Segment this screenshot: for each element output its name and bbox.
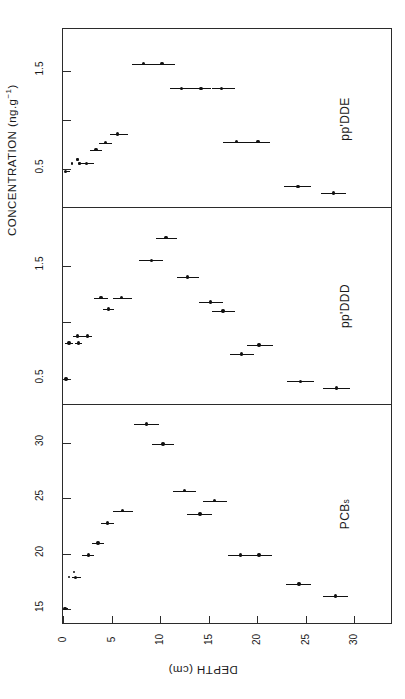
y-axis-tick-label: 15 <box>34 592 45 622</box>
x-axis-tick <box>63 616 64 623</box>
panel-caption: pp'DDE <box>338 74 352 164</box>
panel-caption: PCBs <box>338 469 352 559</box>
x-axis-tick-label: 25 <box>299 628 310 652</box>
y-axis-title-text: CONCENTRATION (ng.g <box>6 99 18 236</box>
data-point <box>240 352 243 355</box>
data-point <box>99 296 102 299</box>
panel-caption-text: PCB <box>338 503 352 529</box>
data-point <box>142 62 145 65</box>
data-point <box>78 162 80 164</box>
data-point <box>150 259 153 262</box>
data-point <box>116 132 119 135</box>
y-axis-title-paren: ) <box>6 84 18 88</box>
data-point <box>220 87 223 90</box>
data-point <box>221 309 224 312</box>
y-axis-tick <box>63 322 71 323</box>
data-point <box>74 576 77 579</box>
data-point <box>299 380 302 383</box>
y-axis-tick <box>63 498 71 499</box>
data-point <box>64 170 67 173</box>
y-axis-tick-label: 20 <box>34 536 45 566</box>
data-point <box>235 140 238 143</box>
data-point <box>335 386 338 389</box>
x-axis-tick <box>354 616 355 623</box>
y-axis-title-exponent: −1 <box>4 89 13 99</box>
error-bar <box>153 64 174 65</box>
data-point <box>297 582 300 585</box>
data-point <box>183 489 186 492</box>
data-point <box>121 509 124 512</box>
x-axis-tick-label: 15 <box>202 628 213 652</box>
data-point <box>209 300 212 303</box>
error-bar <box>212 88 235 89</box>
x-axis-tick <box>257 616 258 623</box>
data-point <box>164 236 167 239</box>
data-point <box>77 341 80 344</box>
panel-caption-subscript: s <box>341 499 351 504</box>
panel-divider <box>63 207 391 208</box>
data-point <box>257 553 260 556</box>
data-point <box>145 422 148 425</box>
data-point <box>256 140 259 143</box>
data-point <box>76 158 78 160</box>
data-point <box>85 162 88 165</box>
x-axis-tick <box>112 616 113 623</box>
y-axis-tick-label: 25 <box>34 481 45 511</box>
x-axis-title: DEPTH (cm) <box>118 664 288 676</box>
data-point <box>257 343 260 346</box>
data-point <box>107 307 110 310</box>
y-axis-tick-label: 1.5 <box>34 248 45 278</box>
y-axis-tick <box>63 266 71 267</box>
x-axis-tick-label: 20 <box>251 628 262 652</box>
data-point <box>120 296 123 299</box>
panel-caption: pp'DDD <box>338 261 352 351</box>
data-point <box>180 87 183 90</box>
data-point <box>106 521 109 524</box>
y-axis-tick-label: 30 <box>34 425 45 455</box>
data-point <box>73 571 75 573</box>
data-point <box>71 162 73 164</box>
y-axis-tick <box>63 443 71 444</box>
data-point <box>94 148 97 151</box>
x-axis-tick <box>160 616 161 623</box>
data-point <box>296 185 299 188</box>
data-point <box>199 87 202 90</box>
y-axis-tick-label: 0.5 <box>34 152 45 182</box>
data-point <box>334 594 337 597</box>
data-point <box>239 553 242 556</box>
x-axis-tick-label: 10 <box>154 628 165 652</box>
data-point <box>87 553 90 556</box>
data-point <box>161 442 164 445</box>
data-point <box>86 334 89 337</box>
x-axis-tick-label: 5 <box>105 628 116 652</box>
data-point <box>76 334 79 337</box>
x-axis-tick <box>209 616 210 623</box>
panel-divider <box>63 404 391 405</box>
data-point <box>67 341 70 344</box>
x-axis-tick <box>306 616 307 623</box>
x-axis-tick-label: 0 <box>57 628 68 652</box>
data-point <box>64 377 67 380</box>
y-axis-tick <box>63 120 71 121</box>
data-point <box>186 275 189 278</box>
data-point <box>332 191 335 194</box>
y-axis-title: CONCENTRATION (ng.g−1) <box>4 16 18 236</box>
x-axis-tick-label: 30 <box>348 628 359 652</box>
data-point <box>68 576 70 578</box>
data-point <box>63 607 66 610</box>
data-point <box>213 499 216 502</box>
data-point <box>198 512 201 515</box>
y-axis-tick <box>63 554 71 555</box>
data-point <box>104 141 107 144</box>
data-point <box>160 62 163 65</box>
y-axis-tick-label: 1.5 <box>34 53 45 83</box>
figure-canvas: CONCENTRATION (ng.g−1) DEPTH (cm) 051015… <box>0 0 405 699</box>
data-point <box>96 541 99 544</box>
y-axis-tick-label: 0.5 <box>34 362 45 392</box>
y-axis-tick <box>63 71 71 72</box>
